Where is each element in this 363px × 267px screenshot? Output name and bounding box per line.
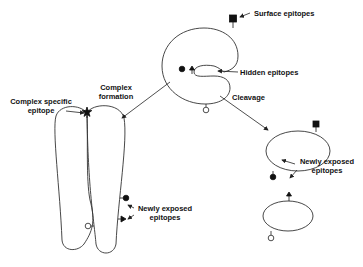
hidden-epitope-triangle-icon [190,66,195,70]
complex-formation-label: Complex formation [96,83,136,101]
newly-exposed-epitopes-left-label: Newly exposed epitopes [134,204,196,222]
fragment-open-circle-epitope-icon [268,235,274,241]
native-protein-shape [162,28,238,104]
complex-open-circle-epitope-icon [85,223,91,229]
hidden-epitopes-label: Hidden epitopes [240,68,298,77]
surface-epitope-square-icon [230,15,237,22]
newly-exposed-epitopes-right-label: Newly exposed epitopes [296,157,358,175]
complex-lobe-right [87,106,125,253]
hidden-epitope-pointer [218,71,238,72]
cleavage-label: Cleavage [232,93,265,102]
fragment-square-epitope-icon [313,121,319,127]
cleaved-fragment-lower [263,201,313,231]
complex-circle-epitope-icon [123,195,129,201]
surface-epitopes-label: Surface epitopes [254,9,314,18]
fragment-circle-epitope-icon [270,174,276,180]
newly-exposed-right-pointer1 [282,160,295,164]
complex-specific-epitope-label: Complex specific epitope [8,97,74,115]
native-open-circle-epitope-icon [203,107,209,113]
hidden-epitope-circle-icon [179,66,185,72]
complex-triangle-epitope-icon [121,216,126,222]
epitope-diagram: Surface epitopes Hidden epitopes Cleavag… [0,0,363,267]
surface-epitope-pointer [240,13,250,17]
fragment-triangle-epitope-icon [287,192,292,196]
diagram-canvas [0,0,363,267]
